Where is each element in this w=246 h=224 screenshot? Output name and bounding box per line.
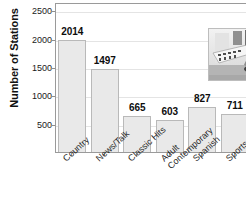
radio-dj-photo-image	[209, 29, 246, 80]
y-tick-label: 2000	[18, 36, 52, 45]
bar-value-label: 603	[150, 107, 190, 117]
y-tick-label: 2500	[18, 7, 52, 16]
y-tick-label: 500	[18, 121, 52, 130]
y-tick-label: 1500	[18, 64, 52, 73]
y-tick-label: 1000	[18, 92, 52, 101]
radio-dj-photo	[208, 28, 246, 81]
bar-value-label: 2014	[55, 27, 92, 37]
bar-value-label: 711	[215, 101, 246, 111]
plot-area: 20141497665603827711	[55, 3, 246, 153]
bar-chart: Number of Stations 5001000150020002500 2…	[0, 0, 246, 224]
gridline	[56, 12, 246, 13]
bar-value-label: 1497	[85, 56, 125, 66]
